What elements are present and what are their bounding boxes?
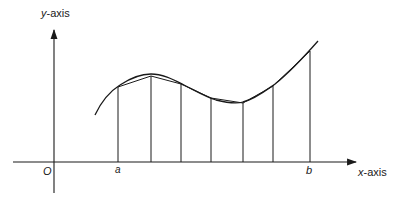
- chord-polyline: [118, 51, 310, 103]
- x-axis-label: x-axis: [358, 166, 387, 178]
- origin-label: O: [43, 165, 52, 177]
- a-label: a: [115, 164, 121, 175]
- x-axis-suffix: -axis: [364, 166, 387, 178]
- y-axis-label: y-axis: [41, 7, 70, 19]
- y-axis-suffix: -axis: [47, 7, 70, 19]
- ordinate-lines: [118, 51, 310, 162]
- b-label: b: [306, 164, 312, 176]
- function-curve: [95, 41, 318, 115]
- trapezoidal-rule-diagram: [0, 0, 399, 203]
